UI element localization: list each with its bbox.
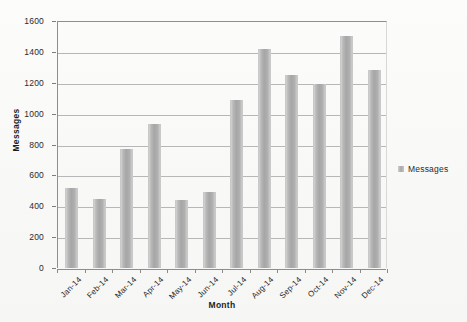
- x-tick-mark: [332, 269, 333, 273]
- bar: [230, 100, 243, 268]
- y-tick-mark: [52, 21, 56, 22]
- plot-area: [57, 21, 387, 268]
- legend-swatch-messages: [398, 166, 404, 172]
- gridline: [58, 84, 386, 85]
- x-tick-mark: [360, 269, 361, 273]
- bar: [65, 188, 78, 268]
- x-tick-mark: [305, 269, 306, 273]
- x-tick-mark: [167, 269, 168, 273]
- bar: [203, 192, 216, 268]
- gridline: [58, 53, 386, 54]
- bar: [258, 49, 271, 268]
- y-tick-mark: [52, 237, 56, 238]
- chart-legend: Messages: [398, 164, 448, 174]
- bar: [93, 199, 106, 268]
- gridline: [58, 115, 386, 116]
- gridline: [58, 176, 386, 177]
- bar: [368, 70, 381, 268]
- bar: [148, 124, 161, 268]
- legend-label-messages: Messages: [408, 164, 448, 174]
- x-tick-mark: [112, 269, 113, 273]
- y-tick-mark: [52, 206, 56, 207]
- y-tick-label: 800: [29, 140, 44, 150]
- x-tick-mark: [277, 269, 278, 273]
- bar: [175, 200, 188, 268]
- y-tick-label: 1400: [24, 47, 44, 57]
- y-tick-mark: [52, 268, 56, 269]
- y-axis-tick-labels: 16001400120010008006004002000: [0, 21, 52, 268]
- x-tick-mark: [250, 269, 251, 273]
- y-tick-mark: [52, 83, 56, 84]
- y-tick-label: 1000: [24, 109, 44, 119]
- y-tick-mark: [52, 145, 56, 146]
- y-tick-label: 200: [29, 232, 44, 242]
- y-tick-label: 600: [29, 170, 44, 180]
- bar: [340, 36, 353, 268]
- gridline: [58, 238, 386, 239]
- x-tick-mark: [85, 269, 86, 273]
- y-tick-mark: [52, 114, 56, 115]
- x-tick-mark: [140, 269, 141, 273]
- y-tick-label: 0: [39, 263, 44, 273]
- bar: [120, 149, 133, 268]
- x-axis-title: Month: [57, 300, 387, 310]
- gridline: [58, 207, 386, 208]
- y-tick-mark: [52, 52, 56, 53]
- x-tick-mark: [57, 269, 58, 273]
- gridline: [58, 146, 386, 147]
- bar: [313, 84, 326, 268]
- y-tick-label: 400: [29, 201, 44, 211]
- x-tick-mark: [222, 269, 223, 273]
- bar: [285, 75, 298, 268]
- y-tick-label: 1600: [24, 16, 44, 26]
- x-tick-mark: [195, 269, 196, 273]
- x-tick-mark: [387, 269, 388, 273]
- y-tick-label: 1200: [24, 78, 44, 88]
- y-tick-mark: [52, 175, 56, 176]
- bar-chart-figure: Messages 16001400120010008006004002000 J…: [0, 0, 467, 322]
